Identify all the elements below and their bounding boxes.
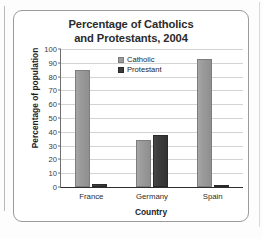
y-axis-title: Percentage of population [30,38,40,158]
y-tick-label: 60 [49,100,57,109]
plot-wrapper: Percentage of population 010203040506070… [14,11,248,221]
y-tick-label: 0 [53,183,57,192]
page-margin-rule-right [259,2,260,227]
y-tick-label: 100 [44,45,57,54]
bar-spain-catholic[interactable] [197,59,212,187]
bar-germany-catholic[interactable] [136,140,151,187]
bar-group-france: France [61,49,122,187]
page-root: Percentage of Catholics and Protestants,… [0,0,263,239]
x-tick-label-spain: Spain [203,192,223,201]
y-tick-label: 90 [49,58,57,67]
legend-item-protestant: Protestant [118,65,162,74]
bar-germany-protestant[interactable] [153,135,168,187]
legend-swatch-catholic-icon [118,57,124,63]
y-tick-label: 20 [49,155,57,164]
y-tick-label: 30 [49,141,57,150]
chart-legend: Catholic Protestant [118,55,162,74]
legend-item-catholic: Catholic [118,55,162,64]
y-tick-label: 40 [49,127,57,136]
bar-spain-protestant[interactable] [214,185,229,187]
x-axis-title: Country [60,207,242,217]
page-margin-rule-left [4,6,5,211]
x-tick-label-france: France [79,192,103,201]
y-tick-label: 50 [49,114,57,123]
y-tick-label: 80 [49,72,57,81]
chart-frame: Percentage of Catholics and Protestants,… [13,10,249,222]
x-tick-label-germany: Germany [136,192,168,201]
bar-group-spain: Spain [182,49,243,187]
bar-france-catholic[interactable] [75,70,90,187]
legend-label-protestant: Protestant [127,65,162,74]
legend-swatch-protestant-icon [118,67,124,73]
y-tick-label: 70 [49,86,57,95]
legend-label-catholic: Catholic [127,55,154,64]
y-tick-label: 10 [49,169,57,178]
bar-france-protestant[interactable] [92,184,107,187]
